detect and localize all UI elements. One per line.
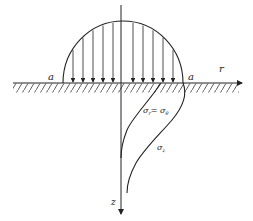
load-arrows bbox=[73, 23, 173, 82]
ground-hatching bbox=[13, 84, 239, 93]
label-sigma-r-theta: σr= σθ bbox=[143, 106, 169, 116]
sigma-r-theta-curve bbox=[121, 83, 161, 158]
label-r-axis: r bbox=[219, 63, 225, 74]
label-a-right: a bbox=[188, 71, 194, 82]
label-z-axis: z bbox=[110, 197, 116, 207]
label-sigma-z: σz bbox=[157, 143, 165, 153]
label-a-left: a bbox=[48, 71, 54, 82]
stress-diagram: a a r z σr= σθ σz bbox=[0, 0, 253, 221]
pressure-distribution-curve bbox=[63, 21, 183, 83]
sigma-z-curve bbox=[127, 83, 185, 193]
